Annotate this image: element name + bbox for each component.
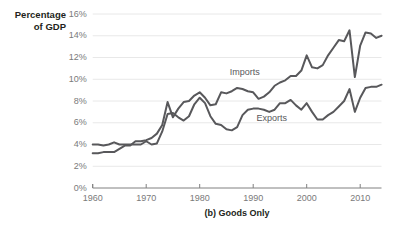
y-tick-label: 10%: [59, 75, 87, 84]
chart-caption: (b) Goods Only: [177, 208, 297, 218]
axis-ticks: [93, 184, 361, 188]
gridlines: [93, 14, 382, 166]
series-line-imports: [93, 30, 382, 153]
y-tick-label: 8%: [59, 97, 87, 106]
series-label-imports: Imports: [230, 68, 260, 77]
x-tick-label: 1990: [233, 194, 273, 203]
x-tick-label: 1960: [73, 194, 113, 203]
y-tick-label: 2%: [59, 162, 87, 171]
y-tick-label: 12%: [59, 53, 87, 62]
y-tick-label: 16%: [59, 10, 87, 19]
x-tick-label: 1980: [180, 194, 220, 203]
y-tick-label: 6%: [59, 118, 87, 127]
y-tick-label: 0%: [59, 184, 87, 193]
x-tick-label: 1970: [126, 194, 166, 203]
x-tick-label: 2010: [340, 194, 380, 203]
series-label-exports: Exports: [257, 114, 288, 123]
y-tick-label: 14%: [59, 31, 87, 40]
y-tick-label: 4%: [59, 140, 87, 149]
axis-lines: [93, 184, 382, 188]
series-line-exports: [93, 85, 382, 146]
series-lines: [93, 30, 382, 153]
gdp-trade-line-chart: Percentage of GDP 0%2%4%6%8%10%12%14%16%…: [0, 0, 402, 227]
x-tick-label: 2000: [287, 194, 327, 203]
